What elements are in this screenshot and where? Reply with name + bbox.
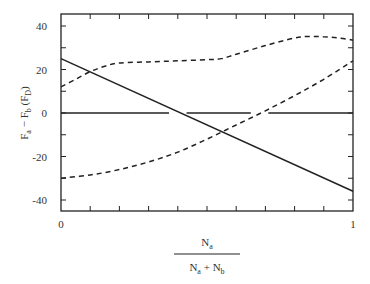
y-tick-label: 20 xyxy=(36,64,48,76)
y-tick-label: -40 xyxy=(32,194,47,206)
y-axis-label: Fa − Fb (FD) xyxy=(18,86,33,140)
chart: -40-200204001 Fa − Fb (FD) NaNa + Nb xyxy=(0,0,370,284)
y-tick-label: 0 xyxy=(42,107,48,119)
x-axis-label: NaNa + Nb xyxy=(174,236,240,276)
x-label-denominator: Na + Nb xyxy=(189,261,224,276)
x-tick-label: 1 xyxy=(350,218,356,230)
y-axis-title: Fa − Fb (FD) xyxy=(18,86,33,140)
x-label-numerator: Na xyxy=(201,236,213,251)
y-tick-label: -20 xyxy=(32,151,47,163)
y-tick-label: 40 xyxy=(36,20,48,32)
x-tick-label: 0 xyxy=(58,218,64,230)
plot-area xyxy=(61,36,353,191)
axes: -40-200204001 xyxy=(32,14,355,230)
solid-line xyxy=(61,59,353,192)
